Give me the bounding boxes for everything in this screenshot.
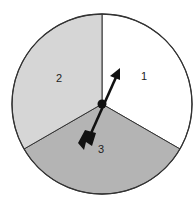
hub	[98, 100, 107, 109]
section-3-label: 3	[98, 143, 104, 155]
section-2-label: 2	[56, 72, 62, 84]
spinner-diagram	[0, 0, 194, 207]
section-1-label: 1	[141, 70, 147, 82]
